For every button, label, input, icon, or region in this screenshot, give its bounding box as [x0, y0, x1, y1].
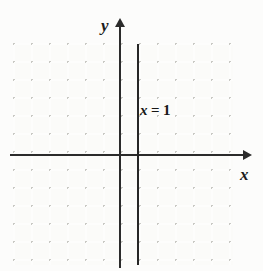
x-axis-label: x [240, 166, 249, 183]
arrow-right-icon [243, 150, 252, 160]
equation-value: 1 [163, 102, 171, 118]
x-axis [10, 154, 248, 156]
equation-annotation: x=1 [140, 102, 171, 119]
plotted-line-x-equals-1 [137, 44, 139, 265]
graph-figure: y x x=1 [0, 0, 263, 271]
y-axis-label: y [101, 17, 109, 34]
y-axis [119, 25, 121, 268]
arrow-up-icon [115, 18, 125, 27]
equation-relation: = [151, 102, 160, 118]
equation-variable: x [140, 102, 148, 118]
